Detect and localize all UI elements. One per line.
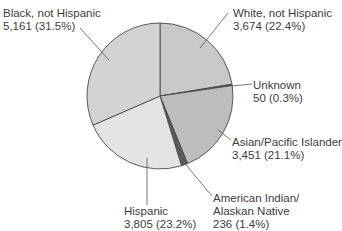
label-asian: Asian/Pacific Islander 3,451 (21.1%) xyxy=(232,136,342,162)
leader-line-american-indian xyxy=(186,165,212,196)
label-white-value: 3,674 (22.4%) xyxy=(233,20,332,33)
label-white: White, not Hispanic 3,674 (22.4%) xyxy=(233,7,332,33)
label-black-name: Black, not Hispanic xyxy=(3,7,101,20)
label-unknown: Unknown 50 (0.3%) xyxy=(253,79,303,105)
label-hispanic: Hispanic 3,805 (23.2%) xyxy=(124,205,196,231)
label-american-indian-name2: Alaskan Native xyxy=(213,205,299,218)
label-unknown-name: Unknown xyxy=(253,79,303,92)
label-american-indian-value: 236 (1.4%) xyxy=(213,218,299,231)
label-black: Black, not Hispanic 5,161 (31.5%) xyxy=(3,7,101,33)
leader-line-unknown xyxy=(232,84,252,86)
label-american-indian: American Indian/ Alaskan Native 236 (1.4… xyxy=(213,192,299,231)
label-asian-value: 3,451 (21.1%) xyxy=(232,149,342,162)
pie-slice-0 xyxy=(160,23,232,96)
label-white-name: White, not Hispanic xyxy=(233,7,332,20)
label-asian-name: Asian/Pacific Islander xyxy=(232,136,342,149)
label-hispanic-value: 3,805 (23.2%) xyxy=(124,218,196,231)
pie-slices xyxy=(87,23,233,169)
label-unknown-value: 50 (0.3%) xyxy=(253,92,303,105)
label-hispanic-name: Hispanic xyxy=(124,205,196,218)
label-american-indian-name1: American Indian/ xyxy=(213,192,299,205)
label-black-value: 5,161 (31.5%) xyxy=(3,20,101,33)
leader-line-white xyxy=(200,13,228,48)
